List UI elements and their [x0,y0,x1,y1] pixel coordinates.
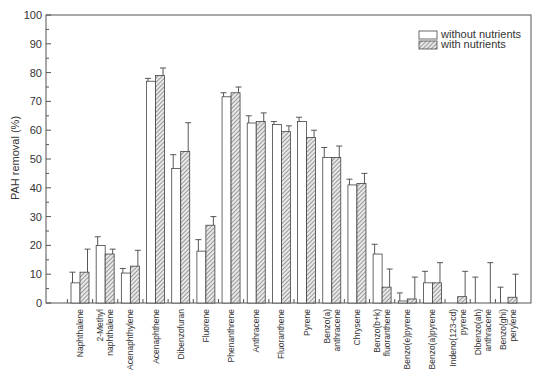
x-tick-label: Benzo(b+k)fluoranthene [372,309,392,357]
bar-with-nutrients [332,158,341,303]
x-tick-label-line: Acenaphthylene [125,309,135,370]
bar-without-nutrients [323,158,332,303]
x-tick-label-line: Indeno(123-cd) [448,309,458,367]
x-tick-label-line: Dibenzo(ah) [473,309,483,355]
x-tick-label: Phenanthrene [226,309,236,363]
bars-layer [67,68,518,303]
x-tick-label: Fluoranthene [276,309,286,359]
y-tick-label: 100 [24,9,42,21]
x-tick-label: Benzo(e)pyrene [402,309,412,370]
x-tick-label-line: anthracene [483,309,493,352]
x-tick-label: Naphthalene [75,309,85,357]
y-tick-label: 90 [30,38,42,50]
y-axis: 0102030405060708090100 [24,9,51,309]
x-tick-label-line: anthracene [332,309,342,352]
bar-without-nutrients [398,301,407,303]
bar-with-nutrients [130,266,139,303]
x-tick-label-line: Benzo(b+k) [372,309,382,353]
x-tick-label: Indeno(123-cd)pyrene [448,309,468,367]
legend-swatch-with-nutrients [419,41,437,49]
x-axis-labels: Naphthalene2-MethylnaphthaleneAcenaphthy… [75,309,518,370]
x-tick-label-line: Chrysene [352,309,362,346]
x-tick-label-line: fluoranthene [382,309,392,357]
bar-with-nutrients [508,297,517,303]
x-tick-label-line: Pyrene [302,309,312,336]
x-tick-label-line: Benzo(a)pyrene [427,309,437,370]
x-tick-label-line: Fluoranthene [276,309,286,359]
bar-without-nutrients [147,81,156,303]
x-tick-label-line: Anthracene [251,309,261,353]
x-tick-label-line: Fluorene [201,309,211,343]
legend: without nutrients with nutrients [419,28,522,50]
x-tick-label: Dibenzo(ah)anthracene [473,309,493,356]
bar-without-nutrients [96,245,105,303]
legend-swatch-without-nutrients [419,31,437,39]
x-tick-label-line: naphthalene [105,309,115,356]
x-tick-label: 2-Methylnaphthalene [95,309,115,356]
bar-without-nutrients [373,254,382,303]
x-tick-label: Anthracene [251,309,261,353]
x-tick-label-line: Benzo(a) [322,309,332,344]
x-tick-label-line: perylene [508,309,518,342]
x-tick-label-line: pyrene [458,309,468,335]
y-tick-label: 80 [30,67,42,79]
bar-with-nutrients [432,283,441,303]
bar-with-nutrients [407,299,416,303]
bar-with-nutrients [231,93,240,303]
bar-with-nutrients [105,254,114,303]
x-tick-label-line: Dibenzofuran [176,309,186,360]
bar-with-nutrients [181,152,190,303]
bar-without-nutrients [348,185,357,303]
y-axis-label: PAH removal (%) [9,116,21,200]
bar-without-nutrients [298,122,307,303]
bar-with-nutrients [206,225,215,303]
legend-label-with-nutrients: with nutrients [440,38,506,50]
bar-with-nutrients [357,183,366,303]
x-tick-label: Chrysene [352,309,362,346]
y-tick-label: 70 [30,95,42,107]
y-tick-label: 0 [36,297,42,309]
y-tick-label: 50 [30,153,42,165]
bar-with-nutrients [256,122,265,303]
x-tick-label-line: Naphthalene [75,309,85,357]
bar-with-nutrients [156,75,165,303]
bar-without-nutrients [423,283,432,303]
x-tick-label: Dibenzofuran [176,309,186,360]
bar-with-nutrients [307,137,316,303]
x-tick-label-line: Benzo(e)pyrene [402,309,412,370]
bar-without-nutrients [121,273,130,303]
x-tick-label: Pyrene [302,309,312,336]
x-tick-label: Benzo(a)pyrene [427,309,437,370]
x-tick-label: Benzo(a)anthracene [322,309,342,352]
bar-chart: 0102030405060708090100 Naphthalene2-Meth… [0,0,537,374]
x-tick-label-line: Phenanthrene [226,309,236,363]
bar-with-nutrients [382,287,391,303]
bar-with-nutrients [80,272,89,303]
bar-without-nutrients [71,283,80,303]
y-tick-label: 40 [30,182,42,194]
bar-without-nutrients [172,169,181,303]
x-tick-label: Fluorene [201,309,211,343]
x-tick-label-line: 2-Methyl [95,309,105,342]
bar-without-nutrients [247,123,256,303]
y-tick-label: 30 [30,211,42,223]
y-tick-label: 10 [30,268,42,280]
x-tick-label: Acenaphthene [151,309,161,364]
bar-without-nutrients [222,97,231,303]
bar-with-nutrients [458,297,467,303]
bar-without-nutrients [272,124,281,303]
x-tick-label-line: Benzo(ghi) [498,309,508,350]
x-tick-label: Benzo(ghi)perylene [498,309,518,350]
bar-with-nutrients [281,132,290,303]
x-tick-label-line: Acenaphthene [151,309,161,364]
y-tick-label: 20 [30,239,42,251]
bar-without-nutrients [197,251,206,303]
y-tick-label: 60 [30,124,42,136]
x-tick-label: Acenaphthylene [125,309,135,370]
